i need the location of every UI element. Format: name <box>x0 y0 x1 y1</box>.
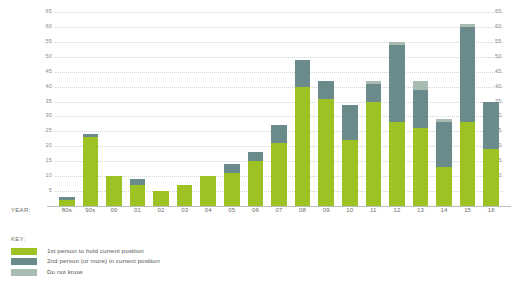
bar-segment[interactable] <box>389 45 405 123</box>
bar-segment[interactable] <box>366 102 382 206</box>
y-tick-label: 55 <box>30 39 52 45</box>
bar-segment[interactable] <box>460 122 476 206</box>
stacked-bar[interactable] <box>59 197 75 206</box>
stacked-bar[interactable] <box>83 134 99 206</box>
bar-column[interactable] <box>413 0 429 206</box>
stacked-bar[interactable] <box>389 42 405 206</box>
stacked-bar[interactable] <box>413 81 429 206</box>
legend-item[interactable]: 1st person to hold current position <box>11 247 331 255</box>
bar-segment[interactable] <box>436 167 452 206</box>
bar-segment[interactable] <box>130 185 146 206</box>
bar-segment[interactable] <box>200 176 216 206</box>
x-tick-label: 04 <box>196 207 220 213</box>
bar-column[interactable] <box>389 0 405 206</box>
bar-segment[interactable] <box>106 176 122 206</box>
legend-item[interactable]: Do not know <box>11 268 331 276</box>
bar-segment[interactable] <box>366 84 382 102</box>
bar-segment[interactable] <box>59 200 75 206</box>
stacked-bar[interactable] <box>295 60 311 206</box>
bar-column[interactable] <box>295 0 311 206</box>
bar-segment[interactable] <box>224 164 240 173</box>
bar-segment[interactable] <box>248 161 264 206</box>
bar-segment[interactable] <box>460 27 476 123</box>
x-tick-label: 00 <box>102 207 126 213</box>
bar-column[interactable] <box>83 0 99 206</box>
x-tick-label: 02 <box>149 207 173 213</box>
x-tick-label: 06 <box>244 207 268 213</box>
bar-column[interactable] <box>318 0 334 206</box>
bar-column[interactable] <box>436 0 452 206</box>
bar-segment[interactable] <box>271 125 287 143</box>
chart-root: 6560555045403530252015105 65605550454035… <box>0 0 522 289</box>
y-tick-label: 45 <box>30 69 52 75</box>
bar-segment[interactable] <box>413 81 429 90</box>
bar-segment[interactable] <box>318 81 334 99</box>
x-tick-label: 12 <box>385 207 409 213</box>
bar-column[interactable] <box>153 0 169 206</box>
stacked-bar[interactable] <box>460 24 476 206</box>
y-tick-label: 15 <box>30 158 52 164</box>
x-tick-label: 13 <box>409 207 433 213</box>
stacked-bar[interactable] <box>200 176 216 206</box>
bar-segment[interactable] <box>83 137 99 206</box>
y-axis-left: 6560555045403530252015105 <box>26 0 52 215</box>
bar-column[interactable] <box>342 0 358 206</box>
stacked-bar[interactable] <box>153 191 169 206</box>
x-tick-label: 09 <box>314 207 338 213</box>
bar-series-group <box>55 0 503 206</box>
legend-item[interactable]: 2nd person (or more) in current position <box>11 258 331 266</box>
y-tick-label: 50 <box>30 54 52 60</box>
bar-column[interactable] <box>224 0 240 206</box>
bar-column[interactable] <box>248 0 264 206</box>
bar-column[interactable] <box>271 0 287 206</box>
stacked-bar[interactable] <box>436 119 452 206</box>
bar-segment[interactable] <box>413 128 429 206</box>
bar-segment[interactable] <box>483 149 499 206</box>
legend-swatch-icon <box>11 248 37 255</box>
bar-segment[interactable] <box>389 122 405 206</box>
bar-segment[interactable] <box>248 152 264 161</box>
bar-segment[interactable] <box>413 90 429 129</box>
x-tick-label: 08 <box>291 207 315 213</box>
plot-area: 6560555045403530252015105 65605550454035… <box>0 0 522 215</box>
bar-segment[interactable] <box>177 185 193 206</box>
bar-segment[interactable] <box>153 191 169 206</box>
x-tick-label: 14 <box>432 207 456 213</box>
y-tick-label: 5 <box>30 188 52 194</box>
stacked-bar[interactable] <box>177 185 193 206</box>
y-tick-label: 40 <box>30 84 52 90</box>
stacked-bar[interactable] <box>106 176 122 206</box>
bar-segment[interactable] <box>436 122 452 167</box>
bar-segment[interactable] <box>295 87 311 206</box>
x-tick-label: 05 <box>220 207 244 213</box>
bar-segment[interactable] <box>342 105 358 141</box>
bar-column[interactable] <box>130 0 146 206</box>
stacked-bar[interactable] <box>248 152 264 206</box>
stacked-bar[interactable] <box>342 105 358 206</box>
bar-column[interactable] <box>366 0 382 206</box>
year-axis-title: YEAR: <box>11 207 31 213</box>
stacked-bar[interactable] <box>483 102 499 206</box>
y-tick-label: 65 <box>30 9 52 15</box>
bar-column[interactable] <box>177 0 193 206</box>
bar-segment[interactable] <box>483 102 499 150</box>
bar-segment[interactable] <box>295 60 311 87</box>
bar-column[interactable] <box>106 0 122 206</box>
bar-column[interactable] <box>200 0 216 206</box>
bar-segment[interactable] <box>224 173 240 206</box>
bar-column[interactable] <box>59 0 75 206</box>
stacked-bar[interactable] <box>271 125 287 206</box>
x-tick-label: 90s <box>79 207 103 213</box>
stacked-bar[interactable] <box>130 179 146 206</box>
x-tick-label: 80s <box>55 207 79 213</box>
stacked-bar[interactable] <box>224 164 240 206</box>
bar-segment[interactable] <box>318 99 334 206</box>
bar-column[interactable] <box>460 0 476 206</box>
x-tick-label: 16 <box>479 207 503 213</box>
bar-segment[interactable] <box>271 143 287 206</box>
stacked-bar[interactable] <box>318 81 334 206</box>
bar-segment[interactable] <box>342 140 358 206</box>
stacked-bar[interactable] <box>366 81 382 206</box>
y-tick-label: 60 <box>30 24 52 30</box>
bar-column[interactable] <box>483 0 499 206</box>
